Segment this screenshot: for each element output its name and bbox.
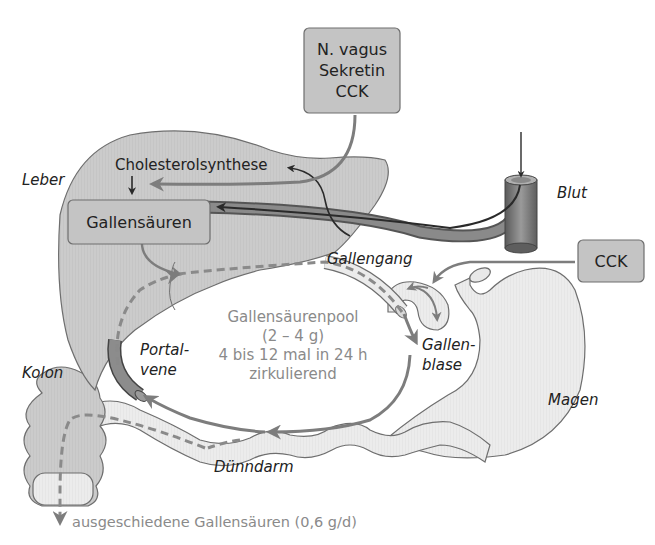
gallbladder-label-line2: blase: [422, 356, 462, 374]
colon-label: Kolon: [22, 364, 63, 382]
small-intestine-label: Dünndarm: [214, 458, 294, 476]
cck-label: CCK: [595, 252, 628, 271]
regulator-vagus-label: N. vagus: [317, 40, 387, 59]
stomach-label: Magen: [548, 391, 598, 409]
duct-to-gallbladder-arrow: [404, 314, 415, 340]
bile-acids-label: Gallensäuren: [86, 213, 192, 232]
portal-vein-label-line2: vene: [140, 361, 177, 379]
cck-box: CCK: [578, 240, 644, 282]
pool-frequency: 4 bis 12 mal in 24 h: [219, 346, 368, 364]
bile-duct-label: Gallengang: [327, 250, 413, 268]
regulator-cck-label: CCK: [336, 82, 369, 101]
pool-amount: (2 – 4 g): [262, 327, 324, 345]
blood-label: Blut: [557, 184, 588, 202]
enterohepatic-circulation-diagram: N. vagus Sekretin CCK CCK Gallensäuren C…: [0, 0, 655, 545]
bile-acids-box: Gallensäuren: [68, 200, 210, 244]
gallbladder-label-line1: Gallen-: [422, 336, 475, 354]
regulators-box: N. vagus Sekretin CCK: [304, 28, 400, 113]
portal-vein-label-line1: Portal-: [140, 341, 189, 359]
regulator-secretin-label: Sekretin: [319, 61, 385, 80]
bile-acid-pool-text: Gallensäurenpool (2 – 4 g) 4 bis 12 mal …: [219, 308, 368, 383]
pool-title: Gallensäurenpool: [227, 308, 358, 326]
pool-circulating: zirkulierend: [249, 365, 337, 383]
liver-label: Leber: [22, 171, 65, 189]
cholesterol-synthesis-label: Cholesterolsynthese: [115, 156, 268, 174]
excretion-label: ausgeschiedene Gallensäuren (0,6 g/d): [72, 514, 357, 530]
